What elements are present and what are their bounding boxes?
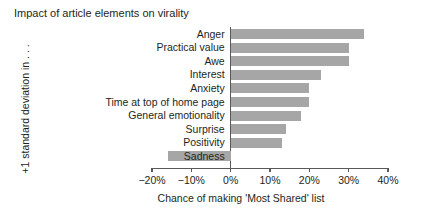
bar-interest bbox=[231, 70, 321, 80]
x-tick-label: 40% bbox=[365, 174, 411, 186]
bar-general-emotionality bbox=[231, 111, 302, 121]
x-tick bbox=[387, 168, 388, 172]
bar-anxiety bbox=[231, 83, 310, 93]
category-label: Awe bbox=[35, 56, 225, 67]
x-tick bbox=[348, 168, 349, 172]
x-tick bbox=[151, 168, 152, 172]
page-title: Impact of article elements on virality bbox=[14, 7, 189, 20]
x-axis-title: Chance of making 'Most Shared' list bbox=[0, 192, 427, 204]
category-label: General emotionality bbox=[35, 110, 225, 121]
category-label: Anger bbox=[35, 29, 225, 40]
bar-awe bbox=[231, 56, 349, 66]
chart-figure: Impact of article elements on virality +… bbox=[0, 0, 427, 214]
plot-area: AngerPractical valueAweInterestAnxietyTi… bbox=[0, 27, 427, 167]
category-label: Positivity bbox=[35, 137, 225, 148]
category-label: Time at top of home page bbox=[35, 97, 225, 108]
category-label: Practical value bbox=[35, 42, 225, 53]
x-tick bbox=[191, 168, 192, 172]
category-label: Anxiety bbox=[35, 83, 225, 94]
bar-time-at-top-of-home-page bbox=[231, 97, 310, 107]
bar-anger bbox=[231, 29, 365, 39]
x-axis: −20%−10%0%10%20%30%40% Chance of making … bbox=[0, 168, 427, 214]
bar-surprise bbox=[231, 124, 286, 134]
x-tick bbox=[230, 168, 231, 172]
x-tick bbox=[269, 168, 270, 172]
category-label: Sadness bbox=[35, 151, 225, 162]
bar-positivity bbox=[231, 138, 282, 148]
bar-practical-value bbox=[231, 43, 349, 53]
category-label: Interest bbox=[35, 69, 225, 80]
x-tick bbox=[309, 168, 310, 172]
category-label: Surprise bbox=[35, 124, 225, 135]
